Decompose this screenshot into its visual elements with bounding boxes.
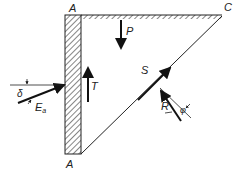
point-a-bottom-label: A: [66, 159, 73, 170]
force-s-label: S: [141, 65, 148, 76]
force-p-label: P: [126, 26, 133, 37]
force-ea-label: Ea: [35, 102, 46, 114]
delta-angle-label: δ: [17, 89, 23, 99]
diagram-graphic: [0, 0, 239, 173]
force-r-label: R: [161, 101, 169, 112]
earth-pressure-diagram: A A C P T S R φ δ Ea: [0, 0, 239, 173]
point-c-label: C: [224, 2, 232, 13]
force-t-label: T: [91, 81, 98, 92]
retaining-wall: [65, 15, 81, 154]
phi-angle-label: φ: [180, 106, 186, 115]
slip-plane: [81, 16, 222, 154]
ground-surface: [81, 15, 222, 19]
point-a-top-label: A: [69, 3, 76, 14]
